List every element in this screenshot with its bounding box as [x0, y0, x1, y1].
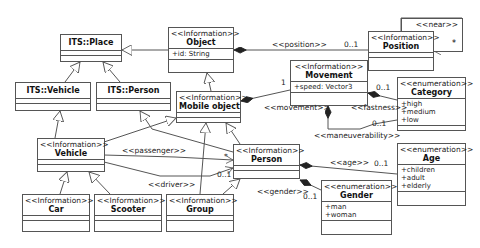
stereotype: <<Information>> — [169, 196, 231, 205]
class-car[interactable]: <<Information>> Car — [22, 194, 90, 232]
class-its-place[interactable]: ITS::Place — [60, 34, 122, 62]
stereotype: <<Information>> — [179, 93, 238, 102]
enum-age[interactable]: <<enumeration>> Age +children +adult +el… — [397, 143, 466, 206]
class-person[interactable]: <<Information>> Person — [233, 144, 300, 179]
class-its-person[interactable]: ITS::Person — [96, 82, 171, 111]
operations-compartment — [177, 117, 240, 122]
stereotype: <<Information>> — [97, 196, 159, 205]
literals-compartment: +children +adult +elderly — [398, 164, 465, 191]
stereotype: <<Information>> — [371, 33, 431, 42]
literal: +medium — [401, 108, 462, 116]
position-role-label: <<position>> — [272, 40, 327, 49]
operations-compartment — [398, 125, 465, 130]
near-label: <<near>> — [416, 20, 458, 29]
class-its-vehicle[interactable]: ITS::Vehicle — [15, 82, 91, 111]
class-object[interactable]: <<Information>> Object +id: String — [168, 27, 234, 73]
operations-compartment — [16, 103, 90, 110]
attribute: +speed: Vector3 — [294, 83, 364, 91]
class-name: Category — [400, 88, 463, 97]
literals-compartment: +high +medium +low — [398, 98, 465, 125]
gender-role-label: <<gender>> — [257, 187, 309, 196]
uml-class-diagram: <<near>> * ITS::Place <<Information>> Ob… — [0, 0, 480, 248]
stereotype: <<Information>> — [171, 29, 231, 38]
class-name: Gender — [324, 191, 389, 200]
class-position[interactable]: <<Information>> Position — [368, 31, 434, 71]
literal: +man — [325, 203, 388, 211]
class-name: Car — [25, 205, 87, 214]
fastness-multiplicity: 0..1 — [376, 83, 390, 92]
near-multiplicity: * — [452, 39, 456, 48]
class-name: Mobile object — [179, 102, 238, 111]
operations-compartment — [167, 220, 233, 231]
enum-gender[interactable]: <<enumeration>> Gender +man +woman — [321, 180, 392, 235]
operations-compartment — [234, 170, 299, 178]
attributes-compartment: +id: String — [169, 48, 233, 59]
stereotype: <<Information>> — [293, 62, 365, 71]
class-vehicle[interactable]: <<Information>> Vehicle — [37, 138, 105, 172]
class-name: ITS::Vehicle — [18, 86, 88, 95]
class-name: Person — [236, 155, 297, 164]
operations-compartment — [169, 59, 233, 72]
stereotype: <<enumeration>> — [400, 145, 463, 154]
stereotype: <<enumeration>> — [400, 79, 463, 88]
stereotype: <<enumeration>> — [324, 182, 389, 191]
class-name: Group — [169, 205, 231, 214]
literals-compartment: +man +woman — [322, 201, 391, 220]
operations-compartment — [369, 57, 433, 70]
age-multiplicity: 0..1 — [374, 159, 388, 168]
driver-role-label: <<driver>> — [148, 180, 195, 189]
literal: +low — [401, 116, 462, 124]
operations-compartment — [61, 55, 121, 61]
class-name: Age — [400, 154, 463, 163]
movement-multiplicity: 1 — [281, 78, 286, 87]
literal: +woman — [325, 211, 388, 219]
attribute: +id: String — [172, 50, 230, 58]
stereotype: <<Information>> — [25, 196, 87, 205]
literal: +children — [401, 166, 462, 174]
gender-multiplicity: 0..1 — [303, 192, 317, 201]
class-movement[interactable]: <<Information>> Movement +speed: Vector3 — [290, 60, 368, 106]
class-name: Object — [171, 38, 231, 47]
stereotype: <<Information>> — [40, 140, 102, 149]
class-name: Scooter — [97, 205, 159, 214]
passenger-role-label: <<passenger>> — [122, 146, 186, 155]
fastness-role-label: <<fastness>> — [351, 103, 407, 112]
maneuverability-multiplicity: 0..1 — [372, 119, 386, 128]
position-multiplicity: 0..1 — [344, 40, 358, 49]
movement-role-label: <<movement>> — [264, 103, 330, 112]
literal: +high — [401, 100, 462, 108]
attributes-compartment: +speed: Vector3 — [291, 81, 367, 92]
class-name: Position — [371, 42, 431, 51]
operations-compartment — [398, 191, 465, 205]
literal: +adult — [401, 174, 462, 182]
class-name: ITS::Place — [63, 38, 119, 47]
operations-compartment — [97, 103, 170, 110]
class-name: Vehicle — [40, 149, 102, 158]
literal: +elderly — [401, 182, 462, 190]
operations-compartment — [38, 164, 104, 171]
class-mobile-object[interactable]: <<Information>> Mobile object — [176, 91, 241, 123]
age-role-label: <<age>> — [330, 158, 369, 167]
operations-compartment — [95, 220, 161, 231]
class-scooter[interactable]: <<Information>> Scooter — [94, 194, 162, 232]
class-group[interactable]: <<Information>> Group — [166, 194, 234, 232]
operations-compartment — [23, 220, 89, 231]
passenger-multiplicity: * — [224, 152, 228, 161]
class-name: ITS::Person — [99, 86, 168, 95]
class-name: Movement — [293, 71, 365, 80]
maneuverability-role-label: <<maneuverability>> — [314, 131, 400, 140]
driver-multiplicity: 0..1 — [217, 170, 231, 179]
operations-compartment — [322, 220, 391, 234]
stereotype: <<Information>> — [236, 146, 297, 155]
